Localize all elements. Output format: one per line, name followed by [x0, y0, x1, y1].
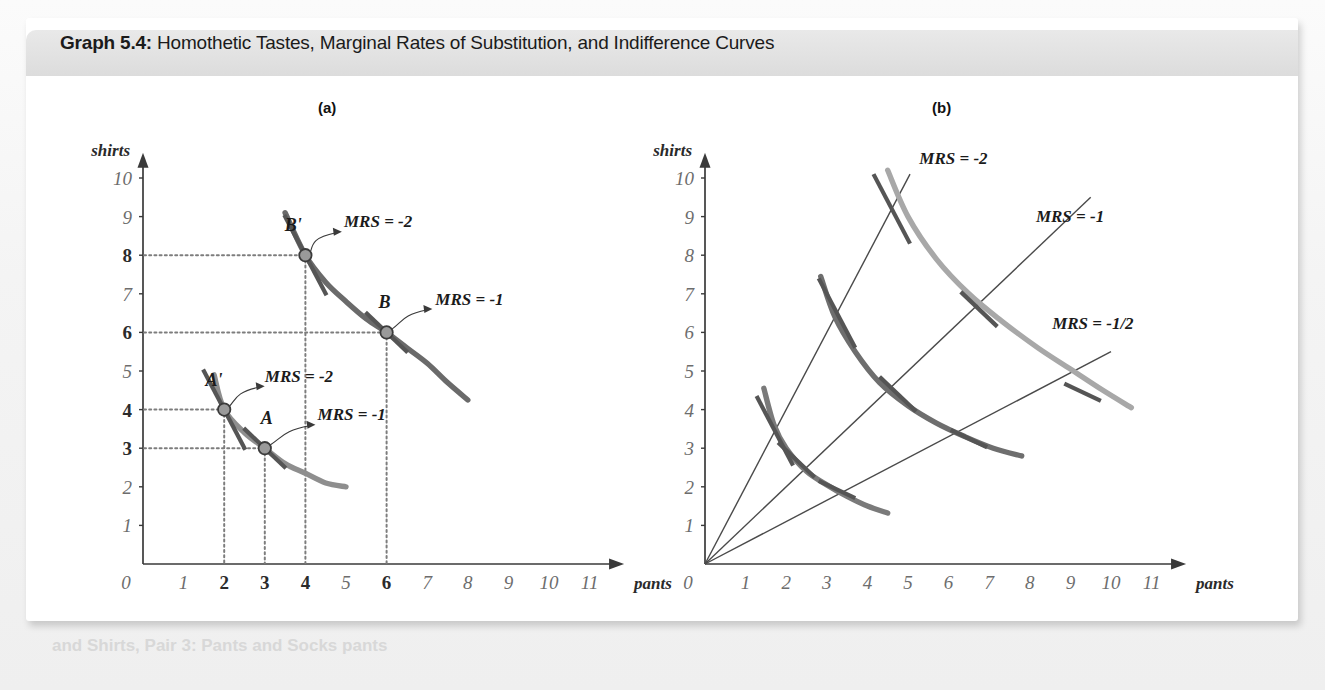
page-background: for use on the plane and Shirts, Pair 3:… — [0, 0, 1325, 690]
panel-a-caption: (a) — [318, 99, 336, 116]
ghost-text-bottom: and Shirts, Pair 3: Pants and Socks pant… — [52, 636, 387, 656]
figure-title-text: Homothetic Tastes, Marginal Rates of Sub… — [157, 32, 774, 53]
figure-title: Graph 5.4: Homothetic Tastes, Marginal R… — [60, 32, 774, 54]
figure-card: Graph 5.4: Homothetic Tastes, Marginal R… — [26, 18, 1298, 621]
panel-b-caption: (b) — [932, 99, 951, 116]
figure-number-label: Graph 5.4: — [60, 32, 152, 53]
